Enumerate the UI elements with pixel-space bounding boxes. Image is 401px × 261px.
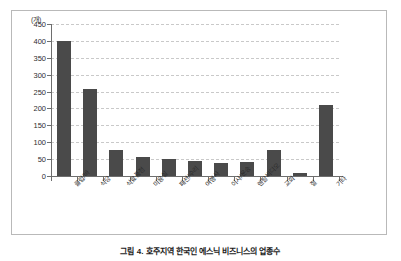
y-axis-tick-label: 350 xyxy=(33,53,46,62)
gridline xyxy=(51,75,339,76)
y-axis-tick-labels: 050100150200250300350400450 xyxy=(22,24,46,176)
x-axis-category-label: 패션/수리 xyxy=(176,181,183,188)
y-axis-tick-label: 50 xyxy=(38,155,46,164)
x-axis-category-labels: 클럽/바식당식료품점미용실패션/수리여행사이사/운송렌탈비디오교회절기타 xyxy=(51,181,343,227)
x-axis-category-label: 식당 xyxy=(97,181,104,188)
bar xyxy=(319,105,333,176)
x-axis-category-label: 렌탈비디오 xyxy=(254,181,261,188)
y-axis-tick-mark xyxy=(47,75,51,76)
gridline xyxy=(51,41,339,42)
y-axis-tick-label: 450 xyxy=(33,20,46,29)
x-axis-category-label: 이사/운송 xyxy=(228,181,235,188)
x-axis-category-label: 클럽/바 xyxy=(71,181,78,188)
y-axis-tick-label: 150 xyxy=(33,121,46,130)
plot-area xyxy=(51,24,339,176)
x-axis-category-label: 식료품점 xyxy=(123,181,130,188)
x-axis-category-label: 여행사 xyxy=(202,181,209,188)
y-axis-tick-label: 200 xyxy=(33,104,46,113)
y-axis-tick-mark xyxy=(47,58,51,59)
x-axis-category-label: 기타 xyxy=(333,181,340,188)
x-axis-category-label: 교회 xyxy=(281,181,288,188)
y-axis-tick-mark xyxy=(47,92,51,93)
y-axis-tick-mark xyxy=(47,159,51,160)
y-axis-tick-label: 100 xyxy=(33,138,46,147)
y-axis-tick-label: 300 xyxy=(33,70,46,79)
figure-root: (개) 050100150200250300350400450 클럽/바식당식료… xyxy=(0,0,401,261)
y-axis-tick-mark xyxy=(47,41,51,42)
gridline xyxy=(51,24,339,25)
figure-caption: 그림 4. 호주지역 한국인 에스닉 비즈니스의 업종수 xyxy=(0,245,401,256)
y-axis-tick-mark xyxy=(47,142,51,143)
y-axis-tick-mark xyxy=(47,108,51,109)
y-axis-tick-label: 400 xyxy=(33,36,46,45)
y-axis-tick-marks xyxy=(47,24,52,176)
y-axis-tick-mark xyxy=(47,125,51,126)
bar xyxy=(57,41,71,176)
x-axis-category-label: 절 xyxy=(307,181,314,188)
gridline xyxy=(51,58,339,59)
bar xyxy=(109,150,123,176)
y-axis-tick-label: 250 xyxy=(33,87,46,96)
bar xyxy=(83,89,97,176)
y-axis-tick-mark xyxy=(47,24,51,25)
y-axis-tick-label: 0 xyxy=(42,172,46,181)
x-axis-category-label: 미용실 xyxy=(150,181,157,188)
